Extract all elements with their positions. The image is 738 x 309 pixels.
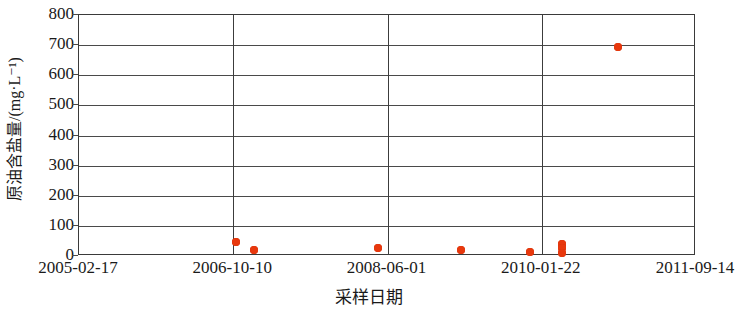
plot-area [78,14,695,255]
y-axis-tick-labels: 0100200300400500600700800 [26,0,74,270]
horizontal-gridline [79,166,694,167]
scatter-chart: 原油含盐量/(mg·L⁻¹) 0100200300400500600700800… [0,0,738,309]
vertical-gridline [388,15,389,254]
y-axis-tick-label: 300 [30,156,74,173]
horizontal-gridline [79,196,694,197]
y-axis-tick-label: 100 [30,216,74,233]
y-axis-tick-label: 700 [30,35,74,52]
vertical-gridline [542,15,543,254]
vertical-gridline [233,15,234,254]
horizontal-gridline [79,75,694,76]
horizontal-gridline [79,226,694,227]
x-axis-tick-label: 2005-02-17 [38,258,117,278]
y-axis-tick-label: 600 [30,65,74,82]
y-axis-tick-label: 500 [30,95,74,112]
x-axis-tick-label: 2010-01-22 [501,258,580,278]
y-axis-tick-label: 200 [30,186,74,203]
x-axis-tick-label: 2006-10-10 [193,258,272,278]
x-axis-title-text: 采样日期 [335,288,403,307]
x-axis-tick-labels: 2005-02-172006-10-102008-06-012010-01-22… [0,258,738,282]
y-axis-tick-label: 400 [30,126,74,143]
x-axis-title: 采样日期 [0,283,738,308]
horizontal-gridline [79,136,694,137]
horizontal-gridline [79,45,694,46]
x-axis-tick-label: 2011-09-14 [656,258,735,278]
y-axis-tick-label: 800 [30,5,74,22]
y-axis-title: 原油含盐量/(mg·L⁻¹) [0,0,26,258]
y-axis-title-text: 原油含盐量/(mg·L⁻¹) [1,57,25,201]
horizontal-gridline [79,105,694,106]
x-axis-tick-label: 2008-06-01 [347,258,426,278]
